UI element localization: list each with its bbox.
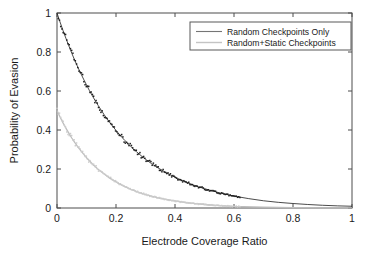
figure-container: 00.20.40.60.81 00.20.40.60.81 Electrode … <box>0 0 369 258</box>
y-tick-label: 0.8 <box>36 46 51 58</box>
y-tick-label: 0.4 <box>36 124 51 136</box>
y-tick-label: 1 <box>45 7 51 19</box>
x-tick-label: 0 <box>54 212 60 224</box>
x-axis-tick-labels: 00.20.40.60.81 <box>54 212 355 224</box>
y-tick-label: 0.6 <box>36 85 51 97</box>
legend-label-random-static-checkpoints: Random+Static Checkpoints <box>227 38 336 48</box>
x-tick-label: 0.4 <box>168 212 183 224</box>
x-tick-label: 1 <box>349 212 355 224</box>
y-axis-tick-labels: 00.20.40.60.81 <box>36 7 51 214</box>
legend: Random Checkpoints Only Random+Static Ch… <box>190 22 351 50</box>
y-tick-label: 0.2 <box>36 163 51 175</box>
legend-label-random-checkpoints-only: Random Checkpoints Only <box>227 27 330 37</box>
x-tick-label: 0.2 <box>109 212 124 224</box>
y-tick-label: 0 <box>45 202 51 214</box>
x-tick-label: 0.6 <box>227 212 242 224</box>
series-random-static-checkpoints <box>56 108 352 208</box>
x-tick-label: 0.8 <box>286 212 301 224</box>
chart-canvas: 00.20.40.60.81 00.20.40.60.81 Electrode … <box>0 0 369 258</box>
y-axis-title: Probability of Evasion <box>8 58 20 164</box>
x-axis-title: Electrode Coverage Ratio <box>142 235 268 247</box>
